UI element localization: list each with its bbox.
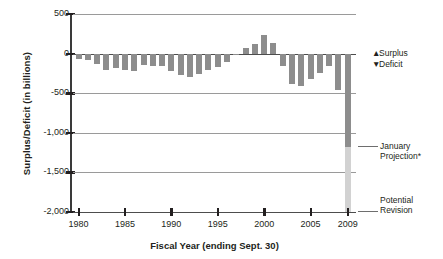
surplus-deficit-chart: Surplus/Deficit (in billions) 5000-500-1… — [0, 0, 443, 259]
plot-area — [73, 14, 356, 212]
gridline--500 — [73, 93, 356, 94]
bar-2001 — [270, 43, 276, 53]
bar-2007 — [326, 54, 332, 67]
legend-item-surplus: ▲Surplus — [372, 48, 408, 59]
x-tick-label-1990: 1990 — [151, 219, 191, 229]
x-tick-label-1995: 1995 — [198, 219, 238, 229]
y-tick-label-0: 0 — [9, 48, 69, 58]
x-tick-label-2005: 2005 — [291, 219, 331, 229]
bar-1995 — [215, 54, 221, 67]
bar-1991 — [178, 54, 184, 75]
gridline--2000 — [73, 212, 356, 213]
january-projection-annotation: January Projection* — [380, 141, 421, 161]
y-tick-label--1000: -1,000 — [9, 127, 69, 137]
bar-1981 — [85, 54, 91, 60]
potential-revision-line1: Potential — [380, 195, 413, 205]
bar-1987 — [141, 54, 147, 66]
gridline--1500 — [73, 172, 356, 173]
x-tick-2000 — [263, 208, 265, 216]
bar-1992 — [187, 54, 193, 77]
bar-2004 — [298, 54, 304, 87]
bar-1999 — [252, 44, 258, 54]
bar-2002 — [280, 54, 286, 67]
january-projection-leader — [358, 146, 378, 147]
legend: ▲Surplus ▼Deficit — [372, 48, 408, 70]
x-tick-2005 — [310, 208, 312, 216]
bar-1982 — [94, 54, 100, 64]
x-tick-label-2009: 2009 — [328, 219, 368, 229]
x-tick-1995 — [217, 208, 219, 216]
bar-2005 — [308, 54, 314, 79]
legend-label-surplus: Surplus — [379, 48, 408, 58]
potential-revision-line2: Revision — [380, 205, 413, 215]
x-tick-1980 — [78, 208, 80, 216]
triangle-down-icon: ▼ — [372, 59, 379, 70]
bar-1983 — [103, 54, 109, 70]
x-tick-1985 — [124, 208, 126, 216]
bar-1985 — [122, 54, 128, 71]
bar-1988 — [150, 54, 156, 66]
bar-1990 — [168, 54, 174, 72]
bar-1998 — [243, 48, 249, 53]
bar-1989 — [159, 54, 165, 66]
bar-1993 — [196, 54, 202, 74]
y-tick-label--1500: -1,500 — [9, 166, 69, 176]
x-tick-label-1985: 1985 — [105, 219, 145, 229]
bar-1980 — [76, 54, 82, 60]
bar-1996 — [224, 54, 230, 62]
legend-label-deficit: Deficit — [379, 59, 403, 69]
bar-1984 — [113, 54, 119, 69]
gridline--1000 — [73, 133, 356, 134]
gridline-500 — [73, 14, 356, 15]
x-tick-label-1980: 1980 — [59, 219, 99, 229]
x-axis-title: Fiscal Year (ending Sept. 30) — [73, 240, 356, 251]
bar-2009 — [345, 54, 351, 147]
y-axis-spine — [70, 13, 72, 213]
bar-2000 — [261, 35, 267, 54]
bar-1997 — [233, 54, 239, 56]
x-tick-label-2000: 2000 — [244, 219, 284, 229]
triangle-up-icon: ▲ — [372, 48, 379, 59]
y-tick-label--2000: -2,000 — [9, 206, 69, 216]
bar-2006 — [317, 54, 323, 74]
january-projection-line2: Projection* — [380, 151, 421, 161]
bar-1994 — [205, 54, 211, 70]
legend-item-deficit: ▼Deficit — [372, 59, 408, 70]
x-tick-1990 — [170, 208, 172, 216]
january-projection-line1: January — [380, 141, 421, 151]
y-tick-label-500: 500 — [9, 8, 69, 18]
y-tick-label--500: -500 — [9, 87, 69, 97]
bar-2003 — [289, 54, 295, 84]
potential-revision-annotation: Potential Revision — [380, 195, 413, 215]
bar-1986 — [131, 54, 137, 72]
potential-revision-leader — [358, 211, 378, 212]
bar-2008 — [335, 54, 341, 90]
x-tick-2009 — [347, 208, 349, 216]
